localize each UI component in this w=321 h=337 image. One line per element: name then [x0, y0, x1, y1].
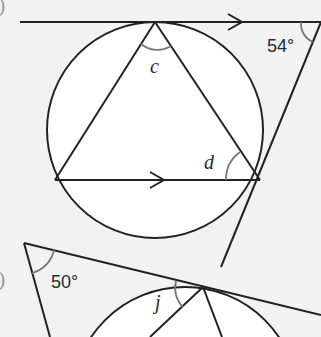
angle-label-j: j	[155, 292, 161, 312]
part-marker-top: )	[0, 0, 5, 16]
angle-label-50: 50°	[51, 273, 78, 291]
angle-arc-50	[32, 250, 54, 273]
angle-label-c: c	[150, 56, 159, 76]
side-line-left	[24, 243, 50, 337]
angle-label-d: d	[204, 152, 214, 172]
part-marker-bottom: )	[0, 268, 5, 290]
angle-label-54: 54°	[267, 37, 294, 55]
diagram-canvas: ) c d 54° ) 50° j	[0, 0, 321, 337]
angle-arc-54	[301, 22, 313, 42]
circle-bottom	[72, 287, 298, 337]
